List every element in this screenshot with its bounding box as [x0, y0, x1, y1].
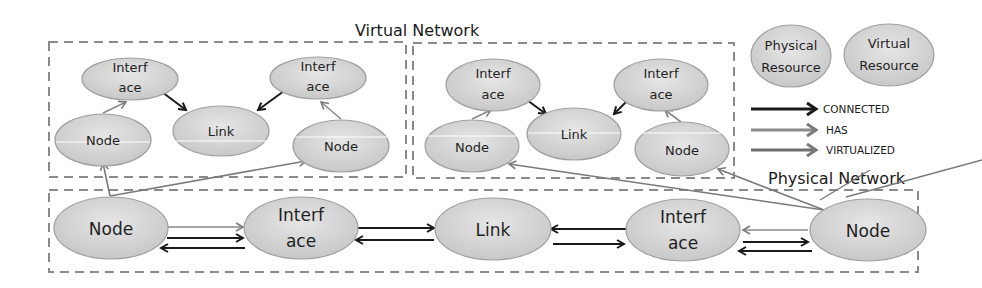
legend-physical-resource: Physical Resource: [751, 25, 831, 87]
svg-text:ace: ace: [118, 80, 141, 95]
vn2-node-right: Node: [635, 122, 729, 176]
vn1-has-arrow-left: [103, 102, 126, 113]
vn2-interface-left: Interf ace: [446, 59, 540, 111]
svg-text:Interf: Interf: [660, 207, 707, 227]
vn2-interface-right: Interf ace: [614, 59, 708, 111]
vn2-connected-arrow-left: [527, 100, 546, 114]
vn1-node-right: Node: [293, 120, 389, 172]
svg-text:Physical: Physical: [765, 38, 818, 53]
vn1-connected-arrow-right: [258, 91, 284, 110]
svg-text:ace: ace: [286, 231, 316, 251]
svg-text:Virtual: Virtual: [868, 36, 910, 51]
svg-text:Interf: Interf: [475, 66, 511, 81]
svg-text:Node: Node: [89, 219, 133, 239]
vn2-link: Link: [527, 108, 621, 160]
svg-text:ace: ace: [649, 87, 672, 102]
svg-text:Link: Link: [561, 127, 588, 142]
svg-text:ace: ace: [668, 233, 698, 253]
legend: Physical Resource Virtual Resource CONNE…: [751, 24, 934, 156]
vn1-interface-right: Interf ace: [270, 57, 366, 99]
svg-text:Node: Node: [665, 143, 699, 158]
pn-interface-right: Interf ace: [626, 199, 740, 261]
network-diagram: Virtual Network Physical Network Interf …: [0, 0, 982, 288]
svg-text:ace: ace: [306, 79, 329, 94]
vn1-link: Link: [173, 106, 269, 156]
vn2-has-arrow-right: [665, 110, 681, 122]
svg-text:Link: Link: [208, 124, 235, 139]
svg-text:Resource: Resource: [859, 58, 919, 73]
pn-node-right: Node: [810, 199, 926, 261]
virtualized-arrow-pnode-to-vn1-node-left: [103, 163, 110, 196]
vn1-connected-arrow-left: [162, 92, 186, 110]
svg-text:CONNECTED: CONNECTED: [823, 103, 889, 115]
pn-link: Link: [435, 198, 551, 260]
legend-virtual-resource: Virtual Resource: [844, 24, 934, 86]
vn2-node-left: Node: [425, 120, 519, 172]
svg-text:ace: ace: [481, 87, 504, 102]
physical-network-title: Physical Network: [768, 169, 906, 188]
virtual-network-title: Virtual Network: [355, 21, 480, 40]
pn-node-left: Node: [54, 197, 168, 259]
svg-text:Link: Link: [476, 220, 511, 240]
svg-text:Node: Node: [86, 133, 120, 148]
legend-connected: CONNECTED: [751, 103, 889, 115]
svg-text:Interf: Interf: [112, 60, 148, 75]
svg-text:Resource: Resource: [761, 60, 821, 75]
vn1-interface-left: Interf ace: [82, 58, 178, 100]
vn1-node-left: Node: [55, 114, 151, 166]
svg-text:Interf: Interf: [643, 66, 679, 81]
svg-text:Node: Node: [846, 221, 890, 241]
vn1-has-arrow-right: [321, 102, 341, 119]
pn-interface-left: Interf ace: [244, 197, 358, 259]
legend-virtualized: VIRTUALIZED: [751, 144, 895, 156]
svg-text:Interf: Interf: [300, 59, 336, 74]
svg-text:VIRTUALIZED: VIRTUALIZED: [826, 144, 895, 156]
svg-text:HAS: HAS: [826, 124, 848, 136]
svg-text:Interf: Interf: [278, 205, 325, 225]
legend-has: HAS: [751, 124, 848, 136]
svg-text:Node: Node: [324, 139, 358, 154]
svg-text:Node: Node: [455, 140, 489, 155]
